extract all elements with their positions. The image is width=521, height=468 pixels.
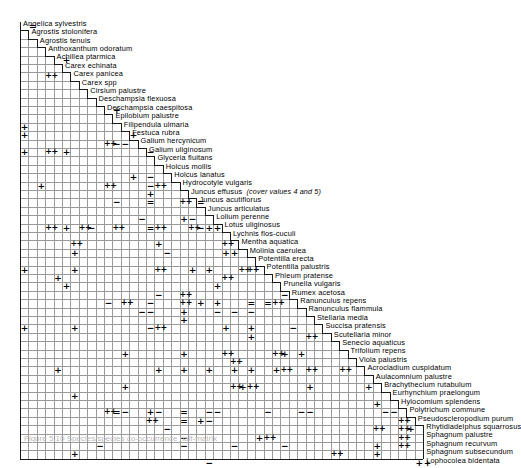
association-symbol: + <box>62 148 70 156</box>
staircase-edge <box>381 383 382 391</box>
staircase-edge <box>171 173 172 181</box>
staircase-edge <box>37 39 38 47</box>
association-symbol: + <box>247 333 255 341</box>
association-symbol: ++ <box>306 366 314 374</box>
association-symbol: − <box>104 299 112 307</box>
association-symbol: + <box>20 131 28 139</box>
staircase-edge <box>171 182 179 183</box>
grid-vline <box>79 81 80 459</box>
staircase-edge <box>331 333 332 341</box>
association-symbol: + <box>70 249 78 257</box>
association-symbol: + <box>205 224 213 232</box>
association-symbol: = <box>180 417 188 425</box>
association-symbol: + <box>180 215 188 223</box>
staircase-edge <box>54 64 62 65</box>
association-symbol: ++ <box>154 266 162 274</box>
association-symbol: − <box>289 324 297 332</box>
association-symbol: ++ <box>79 224 87 232</box>
staircase-edge <box>364 366 365 374</box>
association-symbol: + <box>238 383 246 391</box>
association-symbol: − <box>146 324 154 332</box>
matrix-grid: =+++++++++−−++++−+−+++−+++−=++=−+−+++++−… <box>20 22 423 459</box>
association-symbol: + <box>373 450 381 458</box>
association-symbol: + <box>70 450 78 458</box>
grid-hline <box>20 316 314 317</box>
staircase-edge <box>163 165 164 173</box>
staircase-edge <box>364 375 372 376</box>
grid-vline <box>28 30 29 458</box>
staircase-edge <box>87 98 95 99</box>
association-symbol: − <box>138 215 146 223</box>
association-symbol: + <box>70 324 78 332</box>
grid-hline <box>20 266 264 267</box>
staircase-edge <box>398 408 406 409</box>
association-symbol: + <box>364 383 372 391</box>
staircase-edge <box>390 400 398 401</box>
grid-vline <box>87 89 88 459</box>
association-symbol: + <box>230 249 238 257</box>
staircase-edge <box>247 257 255 258</box>
grid-vline <box>138 140 139 459</box>
staircase-edge <box>289 299 297 300</box>
association-symbol: ++ <box>238 266 246 274</box>
staircase-edge <box>45 56 53 57</box>
association-symbol: + <box>154 366 162 374</box>
association-symbol: + <box>213 282 221 290</box>
association-symbol: ++ <box>154 224 162 232</box>
grid-vline <box>62 64 63 459</box>
association-symbol: + <box>62 224 70 232</box>
association-symbol: − <box>381 408 389 416</box>
grid-vline <box>213 215 214 459</box>
association-symbol: ++ <box>306 333 314 341</box>
matrix-border <box>20 22 21 459</box>
staircase-edge <box>272 282 280 283</box>
staircase-edge <box>45 47 46 55</box>
staircase-edge <box>272 274 273 282</box>
association-symbol: + <box>373 400 381 408</box>
staircase-edge <box>180 190 188 191</box>
association-symbol: ++ <box>154 324 162 332</box>
association-symbol: = <box>264 299 272 307</box>
staircase-edge <box>121 123 122 131</box>
association-symbol: = <box>146 224 154 232</box>
staircase-edge <box>339 350 347 351</box>
staircase-edge <box>415 425 423 426</box>
association-symbol: + <box>129 173 137 181</box>
association-symbol: − <box>306 408 314 416</box>
grid-vline <box>230 232 231 459</box>
grid-vline <box>37 39 38 459</box>
association-symbol: − <box>213 408 221 416</box>
staircase-edge <box>70 81 78 82</box>
association-symbol: ++ <box>146 417 154 425</box>
staircase-edge <box>112 114 113 122</box>
species-label: Lophocolea bidentata <box>426 457 500 465</box>
staircase-edge <box>348 350 349 358</box>
staircase-edge <box>381 392 389 393</box>
staircase-edge <box>205 207 206 215</box>
staircase-edge <box>322 324 323 332</box>
grid-hline <box>20 383 381 384</box>
staircase-edge <box>70 72 71 80</box>
staircase-edge <box>28 30 29 38</box>
association-symbol: + <box>54 274 62 282</box>
association-symbol: − <box>112 198 120 206</box>
grid-vline <box>222 224 223 459</box>
grid-hline <box>20 114 112 115</box>
association-symbol: ++ <box>45 148 53 156</box>
staircase-edge <box>314 316 315 324</box>
staircase-edge <box>331 341 339 342</box>
association-symbol: − <box>196 224 204 232</box>
grid-hline <box>20 333 331 334</box>
association-symbol: − <box>121 408 129 416</box>
staircase-edge <box>28 39 36 40</box>
association-symbol: ++ <box>247 266 255 274</box>
association-symbol: ++ <box>112 224 120 232</box>
staircase-edge <box>180 182 181 190</box>
association-symbol: + <box>205 366 213 374</box>
association-symbol: + <box>37 182 45 190</box>
staircase-edge <box>79 81 80 89</box>
staircase-edge <box>306 316 314 317</box>
staircase-edge <box>356 366 364 367</box>
staircase-edge <box>398 400 399 408</box>
association-symbol: − <box>205 417 213 425</box>
